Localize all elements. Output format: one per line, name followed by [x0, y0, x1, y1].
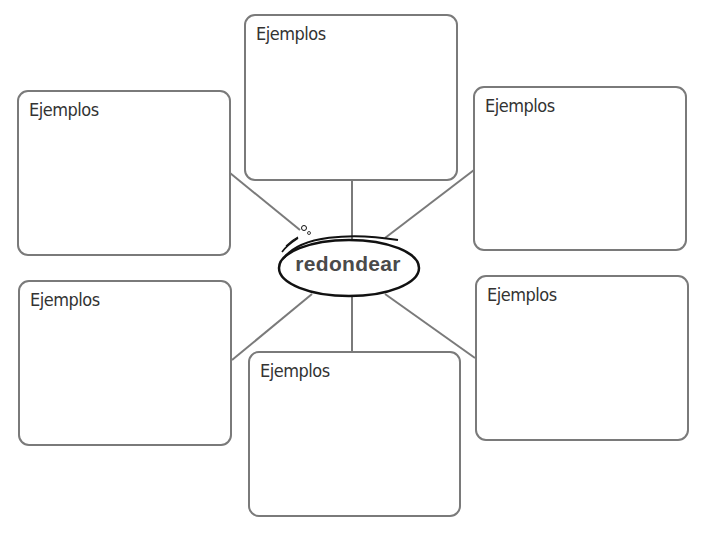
examples-box-top-center[interactable]: Ejemplos — [244, 14, 458, 181]
center-concept: redondear — [277, 252, 419, 276]
examples-box-bottom-right[interactable]: Ejemplos — [475, 275, 689, 441]
examples-box-top-left[interactable]: Ejemplos — [17, 90, 231, 256]
connector-top-left — [230, 173, 300, 230]
box-label: Ejemplos — [30, 289, 100, 310]
box-label: Ejemplos — [256, 23, 326, 44]
box-label: Ejemplos — [487, 284, 557, 305]
examples-box-top-right[interactable]: Ejemplos — [473, 86, 687, 251]
examples-box-bottom-center[interactable]: Ejemplos — [248, 351, 461, 517]
box-label: Ejemplos — [260, 360, 330, 381]
connector-bottom-right — [385, 294, 475, 358]
box-label: Ejemplos — [485, 95, 555, 116]
box-label: Ejemplos — [29, 99, 99, 120]
examples-box-bottom-left[interactable]: Ejemplos — [18, 280, 232, 446]
